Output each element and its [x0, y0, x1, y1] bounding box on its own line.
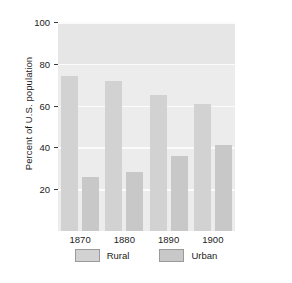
legend-label-rural: Rural	[107, 250, 130, 261]
y-tick-label-80: 80	[20, 58, 50, 69]
plot-upper-band	[58, 22, 235, 65]
legend-swatch-rural	[75, 249, 100, 262]
legend-label-urban: Urban	[191, 250, 217, 261]
bar-rural-1900[interactable]	[194, 104, 211, 231]
gridline-100	[58, 22, 235, 24]
y-tick-mark-20	[54, 189, 58, 190]
x-tick-label-1900: 1900	[183, 234, 243, 245]
y-tick-mark-40	[54, 147, 58, 148]
y-tick-mark-60	[54, 106, 58, 107]
legend-item-rural[interactable]: Rural	[75, 249, 130, 262]
legend-item-urban[interactable]: Urban	[159, 249, 217, 262]
bar-urban-1900[interactable]	[215, 145, 232, 231]
bar-urban-1880[interactable]	[126, 172, 143, 231]
legend-swatch-urban	[159, 249, 184, 262]
y-tick-label-40: 40	[20, 142, 50, 153]
bar-urban-1890[interactable]	[171, 156, 188, 231]
bar-urban-1870[interactable]	[82, 177, 99, 231]
plot-area	[58, 22, 235, 231]
bar-rural-1880[interactable]	[105, 81, 122, 231]
bar-rural-1890[interactable]	[150, 95, 167, 231]
bar-chart: Percent of U.S. population 20406080100 1…	[0, 0, 292, 283]
y-tick-mark-80	[54, 64, 58, 65]
y-tick-label-60: 60	[20, 100, 50, 111]
bar-rural-1870[interactable]	[61, 76, 78, 231]
legend: Rural Urban	[0, 249, 292, 262]
y-tick-label-20: 20	[20, 184, 50, 195]
gridline-80	[58, 64, 235, 66]
y-tick-mark-100	[54, 22, 58, 23]
y-tick-label-100: 100	[20, 17, 50, 28]
